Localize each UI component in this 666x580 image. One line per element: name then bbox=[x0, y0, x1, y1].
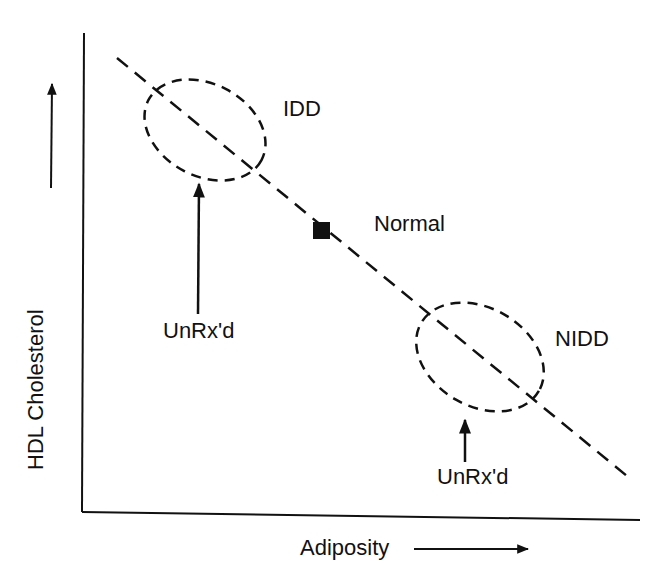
y-axis-label: HDL Cholesterol bbox=[25, 309, 47, 470]
y-axis bbox=[82, 33, 84, 512]
x-axis bbox=[82, 512, 640, 520]
trend-line bbox=[117, 58, 627, 476]
idd-label: IDD bbox=[283, 98, 321, 120]
nidd-label: NIDD bbox=[555, 328, 609, 350]
nidd-unrxd-label: UnRx'd bbox=[437, 466, 508, 488]
normal-point-marker bbox=[313, 222, 330, 239]
normal-label: Normal bbox=[374, 213, 445, 235]
y-axis-direction-arrow bbox=[51, 84, 52, 188]
idd-region bbox=[127, 59, 283, 200]
idd-unrxd-label: UnRx'd bbox=[163, 320, 234, 342]
idd-unrxd-arrow bbox=[198, 184, 199, 314]
x-axis-label: Adiposity bbox=[300, 537, 389, 559]
diagram-canvas bbox=[0, 0, 666, 580]
